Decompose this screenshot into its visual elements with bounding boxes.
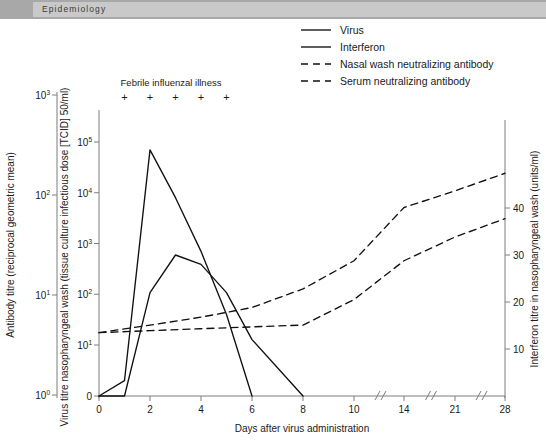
axis-tick-label: 14 bbox=[398, 404, 410, 415]
axis-tick-label: 4 bbox=[198, 404, 204, 415]
axis-tick-label: 30 bbox=[513, 250, 525, 261]
febrile-illness-marker: + bbox=[223, 91, 229, 103]
legend-label: Interferon bbox=[340, 41, 385, 53]
axis-tick-label: 8 bbox=[300, 404, 306, 415]
axis-tick-label: 102 bbox=[35, 189, 50, 201]
chart-page: Epidemiology 0246810142128Days after vir… bbox=[0, 0, 546, 448]
legend-entry-virus: Virus bbox=[301, 24, 364, 36]
antibody-axis-title: Antibody titre (reciprocal geometric mea… bbox=[5, 152, 16, 338]
legend-label: Serum neutralizing antibody bbox=[340, 75, 471, 87]
axis-tick-label: 0 bbox=[96, 404, 102, 415]
x-axis-title: Days after virus administration bbox=[235, 423, 370, 434]
epidemiology-line-chart: 0246810142128Days after virus administra… bbox=[0, 0, 546, 448]
febrile-illness-marker: + bbox=[121, 91, 127, 103]
axis-tick-label: 20 bbox=[513, 297, 525, 308]
legend-layer: VirusInterferonNasal wash neutralizing a… bbox=[301, 24, 494, 87]
legend-label: Nasal wash neutralizing antibody bbox=[340, 58, 494, 70]
legend-entry-nasal-wash-neutralizing-antibody: Nasal wash neutralizing antibody bbox=[301, 58, 494, 70]
febrile-illness-label: Febrile influenzal illness bbox=[121, 77, 222, 88]
axis-tick-label: 105 bbox=[77, 136, 92, 148]
legend-entry-interferon: Interferon bbox=[301, 41, 385, 53]
axis-tick-label: 28 bbox=[499, 404, 511, 415]
legend-label: Virus bbox=[340, 24, 364, 36]
axis-tick-label: 21 bbox=[449, 404, 461, 415]
legend-entry-serum-neutralizing-antibody: Serum neutralizing antibody bbox=[301, 75, 471, 87]
series-line-nasal-wash-neutralizing-antibody bbox=[99, 173, 505, 332]
febrile-illness-marker: + bbox=[198, 91, 204, 103]
axis-tick-label: 103 bbox=[35, 89, 50, 101]
annotation-layer: Febrile influenzal illness+++++ bbox=[121, 77, 230, 103]
axis-tick-label: 102 bbox=[77, 288, 92, 300]
axis-tick-label: 104 bbox=[77, 187, 92, 199]
interferon-axis-title: Interferon titre in nasopharyngeal wash … bbox=[529, 151, 540, 368]
axis-tick-label: 0 bbox=[86, 391, 92, 402]
axes-layer: 0246810142128Days after virus administra… bbox=[5, 88, 540, 434]
febrile-illness-marker: + bbox=[172, 91, 178, 103]
series-layer bbox=[99, 150, 505, 396]
axis-tick-label: 10 bbox=[348, 404, 360, 415]
axis-tick-label: 6 bbox=[249, 404, 255, 415]
series-line-serum-neutralizing-antibody bbox=[99, 219, 505, 333]
axis-tick-label: 40 bbox=[513, 203, 525, 214]
series-line-virus bbox=[99, 150, 252, 396]
axis-tick-label: 100 bbox=[35, 389, 50, 401]
virus-axis-title: Virus titre nasopharyngeal wash (tissue … bbox=[59, 88, 70, 427]
febrile-illness-marker: + bbox=[147, 91, 153, 103]
axis-tick-label: 2 bbox=[147, 404, 153, 415]
axis-tick-label: 101 bbox=[77, 339, 92, 351]
axis-tick-label: 101 bbox=[35, 289, 50, 301]
axis-tick-label: 103 bbox=[77, 238, 92, 250]
axis-tick-label: 10 bbox=[513, 344, 525, 355]
